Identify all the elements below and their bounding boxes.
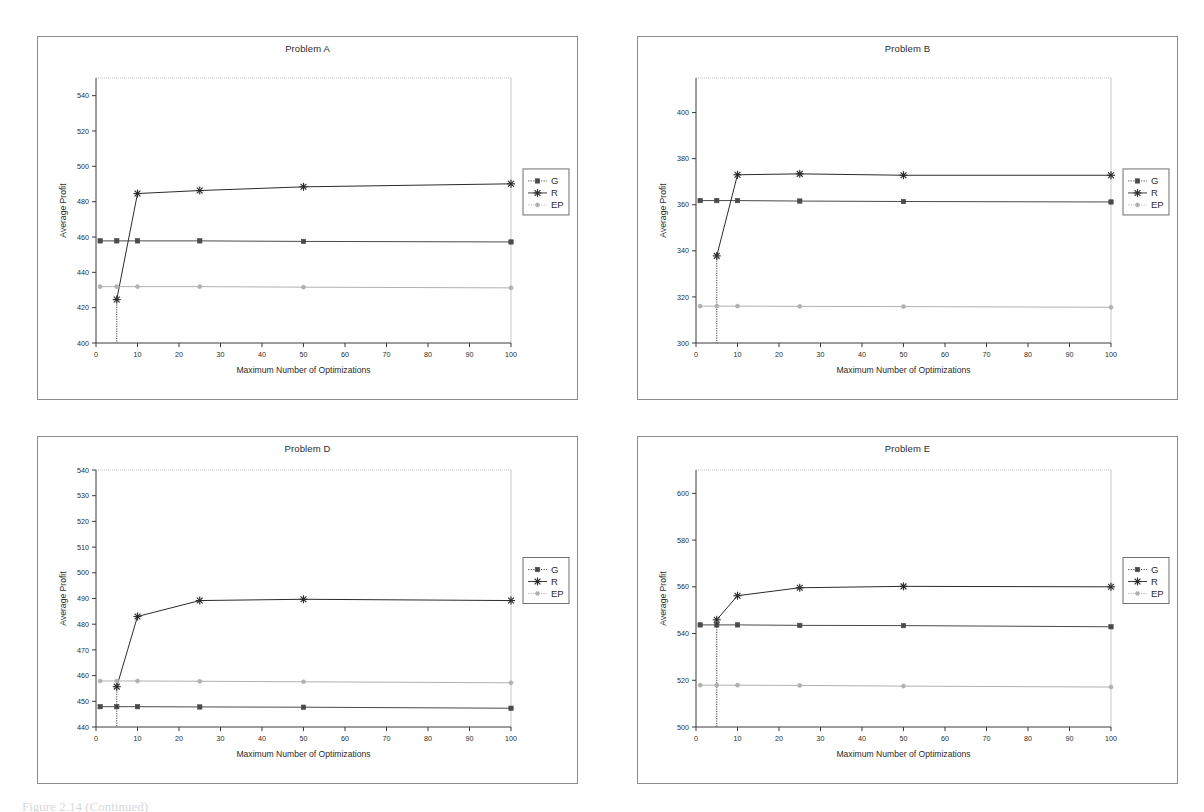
- marker-circle: [698, 304, 702, 308]
- x-axis-title: Maximum Number of Optimizations: [236, 749, 370, 759]
- x-axis-tick-label: 60: [341, 734, 349, 743]
- marker-circle: [1135, 591, 1139, 595]
- y-axis-title: Average Profit: [58, 183, 68, 238]
- x-axis-tick-label: 50: [900, 350, 908, 359]
- chart-panel-problem-d: Problem D 440450460470480490500510520530…: [37, 436, 578, 784]
- marker-circle: [301, 680, 305, 684]
- x-axis-tick-label: 70: [983, 734, 991, 743]
- legend-label-g: G: [1151, 564, 1158, 575]
- legend-label-g: G: [551, 175, 558, 186]
- chart-svg-problem-a: 4004204404604805005205400102030405060708…: [38, 37, 579, 401]
- x-axis-tick-label: 80: [1024, 734, 1032, 743]
- marker-circle: [509, 681, 513, 685]
- figure-page: Problem A 400420440460480500520540010203…: [0, 0, 1204, 812]
- legend-label-ep: EP: [551, 588, 564, 599]
- y-axis-title: Average Profit: [658, 183, 668, 238]
- marker-circle: [98, 679, 102, 683]
- marker-square: [301, 239, 305, 243]
- x-axis-tick-label: 90: [466, 350, 474, 359]
- series-r: [713, 582, 1115, 727]
- y-axis-tick-label: 400: [677, 108, 689, 117]
- y-axis-title: Average Profit: [58, 571, 68, 626]
- legend-label-ep: EP: [1151, 588, 1164, 599]
- marker-square: [135, 704, 139, 708]
- series-g: [698, 198, 1113, 204]
- marker-circle: [535, 591, 539, 595]
- marker-circle: [1109, 685, 1113, 689]
- y-axis-tick-label: 470: [77, 646, 89, 655]
- series-line-r: [717, 174, 1111, 256]
- x-axis-tick-label: 50: [300, 734, 308, 743]
- chart-svg-problem-d: 4404504604704804905005105205305400102030…: [38, 437, 579, 785]
- marker-square: [901, 199, 905, 203]
- y-axis-tick-label: 530: [77, 491, 89, 500]
- chart-panel-problem-e: Problem E 500520540560580600010203040506…: [637, 436, 1178, 784]
- y-axis-tick-label: 500: [77, 568, 89, 577]
- marker-square: [509, 240, 513, 244]
- x-axis-tick-label: 40: [858, 350, 866, 359]
- y-axis-tick-label: 520: [77, 517, 89, 526]
- y-axis-tick-label: 520: [677, 676, 689, 685]
- marker-square: [798, 199, 802, 203]
- x-axis-title: Maximum Number of Optimizations: [836, 749, 970, 759]
- marker-circle: [715, 304, 719, 308]
- marker-square: [715, 198, 719, 202]
- y-axis-tick-label: 400: [77, 339, 89, 348]
- marker-circle: [535, 203, 539, 207]
- y-axis-tick-label: 480: [77, 620, 89, 629]
- marker-square: [1109, 625, 1113, 629]
- x-axis-tick-label: 100: [505, 734, 517, 743]
- marker-circle: [198, 679, 202, 683]
- x-axis-title: Maximum Number of Optimizations: [236, 365, 370, 375]
- x-axis-tick-label: 10: [734, 350, 742, 359]
- marker-square: [98, 704, 102, 708]
- x-axis-tick-label: 20: [775, 734, 783, 743]
- marker-circle: [301, 285, 305, 289]
- y-axis-tick-label: 460: [77, 671, 89, 680]
- marker-circle: [135, 679, 139, 683]
- marker-square: [735, 198, 739, 202]
- series-ep: [698, 683, 1113, 689]
- series-ep: [98, 285, 513, 290]
- legend-label-g: G: [1151, 175, 1158, 186]
- x-axis-tick-label: 100: [505, 350, 517, 359]
- x-axis-tick-label: 10: [134, 350, 142, 359]
- marker-square: [135, 239, 139, 243]
- marker-square: [798, 623, 802, 627]
- x-axis-tick-label: 20: [175, 734, 183, 743]
- marker-circle: [135, 285, 139, 289]
- y-axis-tick-label: 540: [677, 629, 689, 638]
- x-axis-tick-label: 60: [941, 350, 949, 359]
- marker-circle: [198, 285, 202, 289]
- marker-circle: [901, 684, 905, 688]
- y-axis-tick-label: 540: [77, 91, 89, 100]
- marker-square: [198, 705, 202, 709]
- chart-legend: GREP: [523, 169, 569, 215]
- y-axis-tick-label: 540: [77, 466, 89, 475]
- x-axis-tick-label: 90: [1066, 734, 1074, 743]
- x-axis-tick-label: 40: [858, 734, 866, 743]
- series-ep: [698, 304, 1113, 309]
- marker-square: [535, 179, 539, 183]
- marker-circle: [115, 285, 119, 289]
- chart-legend: GREP: [1123, 169, 1169, 215]
- y-axis-tick-label: 510: [77, 543, 89, 552]
- y-axis-tick-label: 440: [77, 723, 89, 732]
- marker-square: [698, 198, 702, 202]
- x-axis-tick-label: 60: [941, 734, 949, 743]
- marker-circle: [901, 304, 905, 308]
- marker-circle: [715, 683, 719, 687]
- marker-square: [301, 705, 305, 709]
- y-axis-tick-label: 520: [77, 127, 89, 136]
- marker-square: [535, 567, 539, 571]
- chart-legend: GREP: [1123, 558, 1169, 604]
- y-axis-tick-label: 450: [77, 697, 89, 706]
- marker-square: [698, 623, 702, 627]
- y-axis-tick-label: 600: [677, 489, 689, 498]
- x-axis-tick-label: 50: [300, 350, 308, 359]
- marker-square: [1135, 179, 1139, 183]
- marker-circle: [735, 683, 739, 687]
- y-axis-title: Average Profit: [658, 571, 668, 626]
- marker-circle: [1135, 203, 1139, 207]
- x-axis-tick-label: 80: [424, 734, 432, 743]
